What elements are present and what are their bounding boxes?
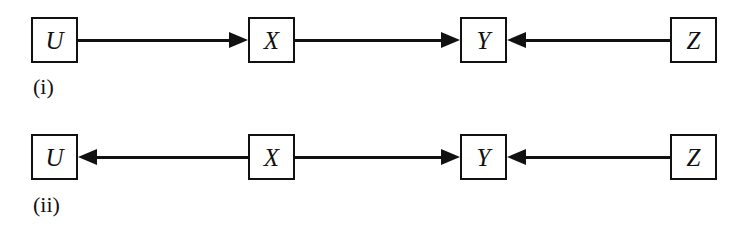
node-label: U (33, 19, 76, 61)
node-y[interactable]: Y (460, 134, 507, 180)
node-label: Z (672, 136, 715, 178)
arrowhead-left-icon (78, 149, 97, 165)
arrowhead-right-icon (441, 149, 460, 165)
panel-caption-ii: (ii) (33, 192, 60, 218)
node-x[interactable]: X (248, 134, 295, 180)
arrowhead-right-icon (441, 32, 460, 48)
node-u[interactable]: U (31, 17, 78, 63)
node-u[interactable]: U (31, 134, 78, 180)
node-label: Y (462, 19, 505, 61)
diagram-panel-ii: U X Y Z (ii) (0, 118, 748, 236)
edge-shaft (97, 156, 248, 159)
node-z[interactable]: Z (670, 17, 717, 63)
node-y[interactable]: Y (460, 17, 507, 63)
arrowhead-left-icon (507, 149, 526, 165)
node-label: Z (672, 19, 715, 61)
edge-z-to-y (507, 32, 670, 48)
node-label: U (33, 136, 76, 178)
panel-caption-i: (i) (33, 74, 54, 100)
arrowhead-left-icon (507, 32, 526, 48)
diagram-panel-i: U X Y Z (i) (0, 0, 748, 118)
edge-shaft (78, 39, 229, 42)
node-label: Y (462, 136, 505, 178)
edge-shaft (295, 39, 441, 42)
edge-u-to-x (78, 32, 248, 48)
node-label: X (250, 19, 293, 61)
node-label: X (250, 136, 293, 178)
edge-shaft (526, 156, 670, 159)
causal-diagram-figure: U X Y Z (i) U (0, 0, 748, 236)
node-z[interactable]: Z (670, 134, 717, 180)
edge-x-to-u (78, 149, 248, 165)
node-x[interactable]: X (248, 17, 295, 63)
edge-x-to-y (295, 32, 460, 48)
edge-shaft (526, 39, 670, 42)
edge-z-to-y (507, 149, 670, 165)
edge-x-to-y (295, 149, 460, 165)
arrowhead-right-icon (229, 32, 248, 48)
edge-shaft (295, 156, 441, 159)
